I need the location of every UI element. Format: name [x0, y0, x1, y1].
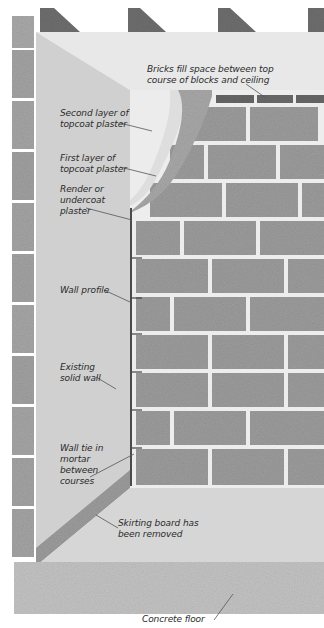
- left-block-column: [12, 16, 34, 557]
- label-skirting-removed: Skirting board has been removed: [118, 518, 199, 540]
- label-existing-wall: Existing solid wall: [60, 362, 101, 384]
- ceiling-joists: [40, 8, 324, 32]
- wall-diagram: Bricks fill space between top course of …: [0, 0, 324, 628]
- label-concrete-floor: Concrete floor: [142, 614, 205, 625]
- label-first-topcoat: First layer of topcoat plaster: [60, 153, 127, 175]
- label-bricks-fill: Bricks fill space between top course of …: [147, 64, 274, 86]
- label-wall-tie: Wall tie in mortar between courses: [60, 443, 103, 487]
- label-wall-profile: Wall profile: [60, 285, 109, 296]
- label-second-topcoat: Second layer of topcoat plaster: [60, 108, 129, 130]
- label-render-undercoat: Render or undercoat plaster: [60, 184, 105, 217]
- concrete-floor: [14, 562, 324, 614]
